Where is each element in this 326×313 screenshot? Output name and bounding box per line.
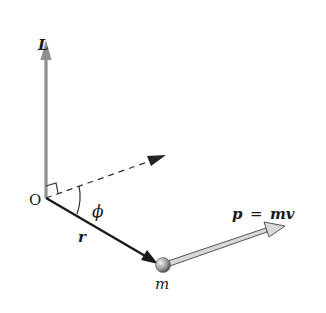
mass-sphere xyxy=(156,258,171,273)
position-label: r xyxy=(78,228,87,246)
angle-label: ϕ xyxy=(92,201,104,221)
momentum-mv-label: mv xyxy=(270,205,295,223)
momentum-vector xyxy=(165,222,285,267)
momentum-equals: = xyxy=(250,205,263,223)
angular-momentum-vector xyxy=(41,40,52,198)
angle-arc xyxy=(77,186,80,214)
right-angle-marker xyxy=(46,183,58,193)
origin-label: O xyxy=(29,191,41,209)
momentum-label: p = mv xyxy=(232,205,295,223)
angular-momentum-label: L xyxy=(37,36,49,54)
dashed-direction-line xyxy=(46,155,166,198)
mass-label: m xyxy=(155,275,169,293)
momentum-p-label: p xyxy=(232,205,243,223)
angular-momentum-diagram: L ϕ O r p = mv m xyxy=(0,0,326,313)
